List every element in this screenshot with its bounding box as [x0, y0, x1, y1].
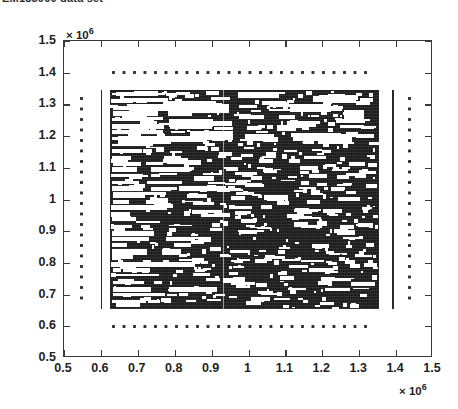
gap-580 [369, 223, 373, 228]
gap-514 [302, 142, 308, 144]
gap-518 [280, 276, 294, 280]
gap-463 [247, 126, 261, 130]
gap-350 [167, 161, 185, 164]
y-tick-label-4: 0.9 [8, 223, 56, 237]
gap-228 [325, 164, 336, 167]
gap-513 [118, 181, 122, 185]
gap-331 [258, 291, 273, 294]
gap-509 [348, 241, 350, 244]
gap-384 [208, 188, 211, 192]
y-tick-5 [64, 200, 70, 201]
gap-314 [264, 170, 277, 174]
gap-253 [117, 303, 123, 307]
gap-313 [329, 214, 338, 216]
gap-stripe-left-12 [112, 167, 137, 171]
gap-556 [326, 234, 330, 236]
gap-323 [280, 281, 285, 283]
gap-352 [361, 271, 364, 273]
gap-large-top-14 [142, 91, 158, 96]
gap-523 [246, 225, 254, 227]
gap-161 [207, 159, 212, 161]
gap-507 [330, 106, 343, 111]
gap-185 [179, 92, 189, 95]
scatter-plot-figure: × 106 × 106 0.50.60.70.80.911.11.21.31.4… [0, 0, 458, 409]
gap-193 [345, 260, 355, 264]
gap-538 [215, 182, 226, 184]
gap-240 [177, 263, 184, 268]
gap-420 [354, 219, 359, 223]
gap-605 [247, 141, 253, 145]
gap-565 [311, 263, 314, 265]
gap-311 [170, 281, 172, 284]
x-tick-label-1: 0.6 [91, 361, 108, 375]
gap-431 [279, 247, 290, 249]
gap-397 [234, 114, 251, 116]
gap-400 [342, 220, 347, 222]
gap-429 [283, 305, 289, 308]
gap-217 [294, 190, 303, 192]
gap-273 [125, 257, 133, 259]
gap-271 [244, 163, 246, 165]
x-tick-label-3: 0.8 [165, 361, 182, 375]
x-tick-label-10: 1.5 [423, 361, 440, 375]
gap-36 [363, 210, 368, 214]
gap-152 [332, 169, 348, 171]
gap-164 [368, 197, 372, 199]
y-tick-8 [64, 104, 70, 105]
gap-425 [311, 115, 320, 118]
gap-408 [257, 167, 266, 169]
x-tick-5 [249, 350, 250, 356]
gap-208 [194, 286, 199, 288]
gap-326 [133, 149, 140, 152]
gap-301 [342, 187, 344, 190]
gap-144 [208, 115, 211, 117]
gap-377 [346, 191, 357, 194]
gap-573 [229, 272, 238, 275]
gap-553 [164, 300, 172, 303]
gap-196 [340, 125, 364, 128]
x-tick-label-5: 1 [244, 361, 251, 375]
gap-98 [267, 125, 273, 129]
gap-194 [330, 229, 332, 233]
gap-343 [293, 98, 295, 100]
gap-275 [273, 148, 277, 151]
gap-339 [150, 242, 155, 244]
gap-412 [146, 151, 152, 155]
gap-515 [282, 259, 300, 261]
gap-602 [114, 286, 117, 291]
gap-197 [366, 243, 374, 247]
gap-382 [294, 222, 308, 226]
gap-534 [242, 174, 253, 177]
gap-187 [267, 199, 279, 201]
gap-366 [362, 216, 365, 218]
gap-355 [202, 249, 207, 254]
gap-500 [139, 130, 151, 133]
gap-393 [248, 164, 251, 168]
gap-496 [333, 114, 338, 117]
gap-265 [224, 205, 227, 209]
gap-436 [301, 181, 309, 185]
gap-359 [238, 230, 264, 232]
gap-450 [369, 93, 374, 97]
gap-542 [246, 301, 261, 305]
gap-113 [256, 131, 268, 134]
x-tick-label-6: 1.1 [276, 361, 293, 375]
gap-214 [255, 100, 259, 104]
y-tick-right-1 [425, 326, 431, 327]
gap-481 [346, 173, 363, 176]
x-tick-2 [138, 350, 139, 356]
y-tick-label-2: 0.7 [8, 287, 56, 301]
gap-383 [206, 290, 211, 294]
gap-4 [295, 242, 299, 244]
gap-428 [351, 119, 365, 124]
gap-482 [356, 101, 370, 105]
gap-210 [277, 229, 279, 232]
y-axis-multiplier-exponent: 6 [89, 26, 94, 36]
gap-108 [263, 215, 265, 219]
gap-357 [261, 226, 265, 229]
gap-large-top-4 [245, 134, 274, 141]
gap-476 [235, 216, 239, 220]
gap-246 [274, 298, 290, 300]
gap-557 [146, 145, 150, 147]
gap-460 [307, 200, 320, 204]
